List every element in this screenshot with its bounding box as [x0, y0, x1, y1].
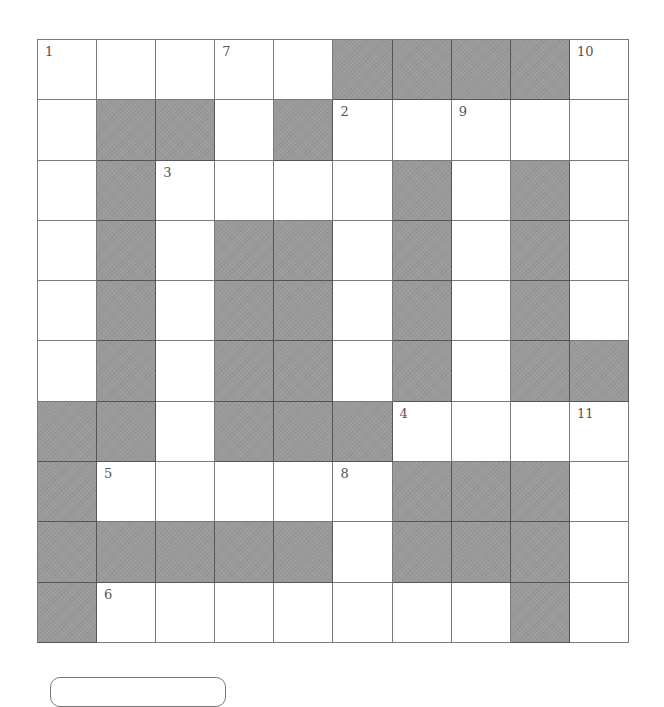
answer-cell[interactable]	[156, 341, 215, 401]
blocked-cell	[274, 221, 333, 281]
answer-cell[interactable]	[333, 341, 392, 401]
blocked-cell	[97, 402, 156, 462]
clue-number: 3	[163, 166, 171, 179]
blocked-cell	[511, 462, 570, 522]
blocked-cell	[274, 100, 333, 160]
answer-cell[interactable]	[38, 100, 97, 160]
clue-number: 5	[104, 467, 112, 480]
answer-cell[interactable]	[452, 583, 511, 643]
answer-cell[interactable]	[215, 583, 274, 643]
answer-cell[interactable]	[274, 462, 333, 522]
blocked-cell	[156, 522, 215, 582]
answer-cell[interactable]	[452, 281, 511, 341]
answer-cell[interactable]	[274, 161, 333, 221]
blocked-cell	[215, 341, 274, 401]
answer-cell[interactable]: 3	[156, 161, 215, 221]
answer-cell[interactable]	[570, 522, 629, 582]
answer-cell[interactable]: 8	[333, 462, 392, 522]
blocked-cell	[274, 522, 333, 582]
answer-cell[interactable]	[333, 161, 392, 221]
answer-cell[interactable]	[333, 221, 392, 281]
answer-cell[interactable]	[570, 161, 629, 221]
crossword-grid: 1710293411586	[37, 39, 629, 643]
clue-number: 1	[45, 45, 53, 58]
answer-cell[interactable]	[452, 341, 511, 401]
blocked-cell	[215, 281, 274, 341]
blocked-cell	[393, 341, 452, 401]
answer-cell[interactable]	[38, 221, 97, 281]
answer-cell[interactable]	[274, 40, 333, 100]
answer-cell[interactable]	[452, 221, 511, 281]
clue-number: 11	[577, 407, 594, 420]
answer-cell[interactable]	[38, 281, 97, 341]
answer-cell[interactable]: 4	[393, 402, 452, 462]
blocked-cell	[97, 161, 156, 221]
answer-cell[interactable]: 9	[452, 100, 511, 160]
answer-cell[interactable]	[215, 100, 274, 160]
answer-cell[interactable]	[393, 100, 452, 160]
blocked-cell	[97, 281, 156, 341]
blocked-cell	[511, 341, 570, 401]
blocked-cell	[38, 522, 97, 582]
blocked-cell	[156, 100, 215, 160]
blocked-cell	[38, 462, 97, 522]
answer-cell[interactable]	[570, 583, 629, 643]
answer-cell[interactable]	[156, 462, 215, 522]
blocked-cell	[393, 221, 452, 281]
answer-cell[interactable]	[452, 402, 511, 462]
answer-cell[interactable]	[38, 341, 97, 401]
blocked-cell	[38, 402, 97, 462]
answer-cell[interactable]	[215, 462, 274, 522]
answer-cell[interactable]	[333, 281, 392, 341]
answer-cell[interactable]	[156, 402, 215, 462]
answer-cell[interactable]	[452, 161, 511, 221]
answer-cell[interactable]	[97, 40, 156, 100]
answer-cell[interactable]: 11	[570, 402, 629, 462]
blocked-cell	[570, 341, 629, 401]
blocked-cell	[452, 522, 511, 582]
clue-number: 10	[577, 45, 594, 58]
answer-cell[interactable]	[570, 100, 629, 160]
answer-cell[interactable]	[215, 161, 274, 221]
blocked-cell	[38, 583, 97, 643]
answer-cell[interactable]	[156, 583, 215, 643]
answer-cell[interactable]	[570, 281, 629, 341]
answer-cell[interactable]	[156, 281, 215, 341]
clue-number: 9	[459, 105, 467, 118]
answer-cell[interactable]	[511, 402, 570, 462]
blocked-cell	[97, 221, 156, 281]
blocked-cell	[393, 40, 452, 100]
answer-cell[interactable]: 7	[215, 40, 274, 100]
answer-cell[interactable]	[38, 161, 97, 221]
answer-cell[interactable]: 5	[97, 462, 156, 522]
blocked-cell	[393, 281, 452, 341]
answer-box	[50, 677, 226, 707]
answer-cell[interactable]	[156, 40, 215, 100]
blocked-cell	[215, 402, 274, 462]
clue-number: 7	[222, 45, 230, 58]
blocked-cell	[393, 522, 452, 582]
blocked-cell	[452, 462, 511, 522]
answer-cell[interactable]	[511, 100, 570, 160]
answer-cell[interactable]	[570, 221, 629, 281]
blocked-cell	[452, 40, 511, 100]
blocked-cell	[97, 100, 156, 160]
answer-cell[interactable]: 1	[38, 40, 97, 100]
blocked-cell	[511, 522, 570, 582]
clue-number: 4	[400, 407, 408, 420]
blocked-cell	[333, 40, 392, 100]
blocked-cell	[215, 522, 274, 582]
answer-cell[interactable]	[570, 462, 629, 522]
answer-cell[interactable]	[274, 583, 333, 643]
clue-number: 8	[340, 467, 348, 480]
blocked-cell	[274, 341, 333, 401]
answer-cell[interactable]	[333, 583, 392, 643]
answer-cell[interactable]	[393, 583, 452, 643]
blocked-cell	[97, 522, 156, 582]
answer-cell[interactable]	[156, 221, 215, 281]
answer-cell[interactable]: 10	[570, 40, 629, 100]
answer-cell[interactable]: 2	[333, 100, 392, 160]
blocked-cell	[511, 583, 570, 643]
answer-cell[interactable]: 6	[97, 583, 156, 643]
answer-cell[interactable]	[333, 522, 392, 582]
